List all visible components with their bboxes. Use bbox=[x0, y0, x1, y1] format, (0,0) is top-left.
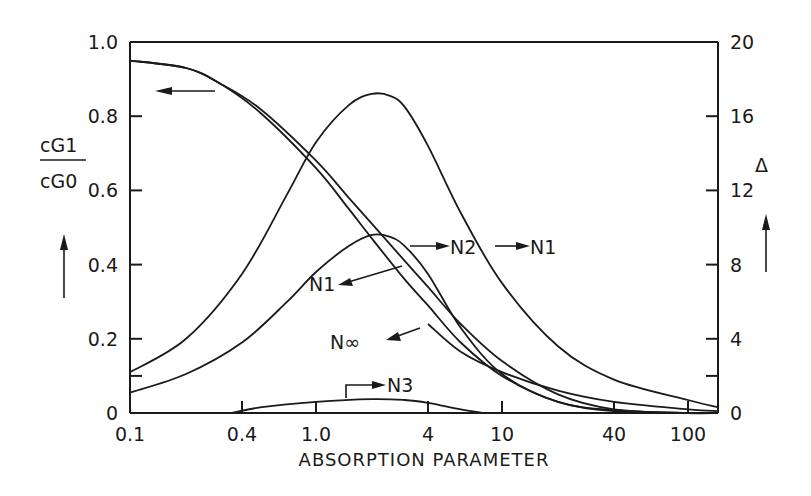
arrow-left-icon bbox=[155, 87, 172, 95]
arrow-left-icon bbox=[386, 332, 401, 341]
x-axis-title: ABSORPTION PARAMETER bbox=[299, 449, 550, 470]
right-y-tick-label: 4 bbox=[730, 328, 742, 350]
up-arrow-left-head-icon bbox=[60, 234, 68, 250]
right-y-tick-label: 8 bbox=[730, 254, 742, 276]
right-y-ticks: 048121620 bbox=[706, 31, 754, 424]
x-tick-label: 0.4 bbox=[227, 423, 257, 445]
x-tick-label: 10 bbox=[490, 423, 514, 445]
left-y-tick-label: 0.2 bbox=[88, 328, 118, 350]
y-left-label-num: cG1 bbox=[40, 134, 77, 156]
right-y-tick-label: 20 bbox=[730, 31, 754, 53]
left-y-tick-label: 0.8 bbox=[88, 105, 118, 127]
arrow-left-icon bbox=[338, 278, 353, 286]
curve--n1 bbox=[130, 93, 718, 407]
arrow-right-icon bbox=[516, 242, 530, 250]
x-tick-label: 0.1 bbox=[115, 423, 145, 445]
annotation-n1-left: N1 bbox=[309, 266, 402, 295]
x-tick-label: 40 bbox=[602, 423, 626, 445]
x-tick-label: 4 bbox=[422, 423, 434, 445]
svg-text:N1: N1 bbox=[309, 273, 335, 295]
svg-text:N2: N2 bbox=[450, 236, 476, 258]
arrow-right-icon bbox=[372, 381, 386, 389]
curve-cg1-cg0-n1 bbox=[130, 61, 718, 414]
chart-canvas: 0.10.41.041040100 00.20.40.60.81.0 04812… bbox=[0, 0, 811, 496]
annotation-n1-right: N1 bbox=[495, 236, 556, 258]
y-left-label-den: cG0 bbox=[40, 170, 77, 192]
up-arrow-right-head-icon bbox=[762, 214, 770, 230]
curve--n- bbox=[428, 324, 718, 411]
svg-text:N3: N3 bbox=[387, 374, 413, 396]
x-tick-label: 1.0 bbox=[301, 423, 331, 445]
left-y-tick-label: 0 bbox=[106, 402, 118, 424]
right-y-tick-label: 16 bbox=[730, 105, 754, 127]
left-y-tick-label: 0.4 bbox=[88, 254, 118, 276]
svg-text:N∞: N∞ bbox=[330, 331, 360, 353]
y-right-label: Δ bbox=[755, 154, 768, 176]
left-y-tick-label: 0.6 bbox=[88, 179, 118, 201]
svg-text:N1: N1 bbox=[530, 236, 556, 258]
annotation-ninf: N∞ bbox=[330, 328, 420, 353]
arrow-right-icon bbox=[436, 242, 450, 250]
annotation-n2: N2 bbox=[410, 236, 476, 258]
curves bbox=[130, 61, 718, 414]
curve--n3 bbox=[231, 399, 484, 413]
right-y-tick-label: 0 bbox=[730, 402, 742, 424]
left-y-ticks: 00.20.40.60.81.0 bbox=[88, 31, 142, 424]
curve-cg1-cg0-n- bbox=[130, 61, 718, 414]
curve--n2 bbox=[130, 234, 718, 413]
left-y-tick-label: 1.0 bbox=[88, 31, 118, 53]
right-y-tick-label: 12 bbox=[730, 179, 754, 201]
annotation-n3: N3 bbox=[346, 374, 413, 398]
x-tick-label: 100 bbox=[670, 423, 706, 445]
x-ticks: 0.10.41.041040100 bbox=[115, 401, 706, 445]
